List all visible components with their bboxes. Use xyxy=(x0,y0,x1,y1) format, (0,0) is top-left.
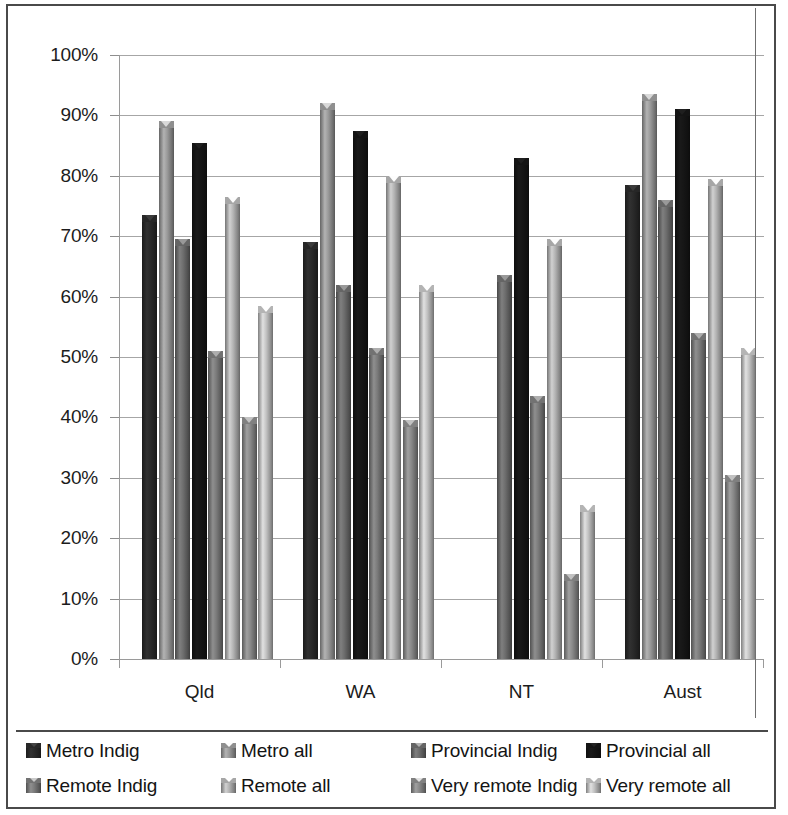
y-axis-tick-mark xyxy=(110,478,119,479)
legend-row: Remote IndigRemote allVery remote IndigV… xyxy=(16,769,768,802)
legend-item[interactable]: Remote Indig xyxy=(26,769,157,802)
x-axis-tick-mark xyxy=(763,659,764,668)
legend-swatch-notch-icon xyxy=(225,778,233,782)
bar-body xyxy=(514,165,529,659)
x-axis-category-label: WA xyxy=(346,681,376,703)
y-axis-tick-mark xyxy=(110,599,119,600)
bar-body xyxy=(625,192,640,659)
legend-item[interactable]: Metro Indig xyxy=(26,734,139,767)
bar-cap-notch-icon xyxy=(355,131,365,137)
bar-cap-notch-icon xyxy=(516,158,526,164)
bar-cap-notch-icon xyxy=(711,179,721,185)
bar-cap-notch-icon xyxy=(583,505,593,511)
legend-label: Metro all xyxy=(241,740,313,762)
bar-cap-notch-icon xyxy=(744,348,754,354)
legend-swatch-body xyxy=(586,783,601,793)
bar-body xyxy=(303,249,318,659)
y-axis-tick-label: 60% xyxy=(61,286,98,308)
bar-cap-notch-icon xyxy=(228,197,238,203)
bar-cap-notch-icon xyxy=(694,333,704,339)
legend-item[interactable]: Provincial Indig xyxy=(411,734,557,767)
y-axis-tick-label: 20% xyxy=(61,527,98,549)
bar xyxy=(675,109,690,659)
bar-cap-notch-icon xyxy=(727,475,737,481)
y-axis-tick-label: 10% xyxy=(61,588,98,610)
legend-swatch-body xyxy=(26,748,41,758)
y-axis-tick-mark xyxy=(110,236,119,237)
y-axis-tick-mark xyxy=(110,659,119,660)
bar-body xyxy=(175,246,190,659)
legend-label: Remote all xyxy=(241,775,330,797)
legend-swatch-notch-icon xyxy=(30,743,38,747)
legend-swatch-icon xyxy=(411,778,426,793)
y-axis-tick-label: 40% xyxy=(61,406,98,428)
y-axis-tick-mark xyxy=(110,357,119,358)
y-axis-tick-mark xyxy=(110,538,119,539)
legend-swatch-icon xyxy=(221,778,236,793)
legend-swatch-icon xyxy=(221,743,236,758)
bar xyxy=(386,176,401,659)
bar-cap-notch-icon xyxy=(533,396,543,402)
bar xyxy=(142,215,157,659)
bar-body xyxy=(159,128,174,659)
legend-label: Metro Indig xyxy=(46,740,139,762)
bar-body xyxy=(403,427,418,659)
bar-cap-notch-icon xyxy=(550,239,560,245)
legend-item[interactable]: Very remote all xyxy=(586,769,730,802)
legend-swatch-body xyxy=(221,783,236,793)
x-axis-tick-mark xyxy=(280,659,281,668)
bar xyxy=(336,285,351,659)
legend-swatch-body xyxy=(411,748,426,758)
bar-body xyxy=(225,204,240,659)
y-axis-tick-mark xyxy=(110,115,119,116)
bar xyxy=(419,285,434,659)
legend-item[interactable]: Remote all xyxy=(221,769,330,802)
bar xyxy=(708,179,723,659)
x-axis-tick-mark xyxy=(119,659,120,668)
legend-label: Very remote all xyxy=(606,775,730,797)
bar-body xyxy=(142,222,157,659)
bar-cap-notch-icon xyxy=(677,109,687,115)
bar-group xyxy=(603,55,764,659)
bar-cap-notch-icon xyxy=(500,275,510,281)
x-axis-tick-mark xyxy=(441,659,442,668)
legend-item[interactable]: Metro all xyxy=(221,734,313,767)
bar xyxy=(208,351,223,659)
bar xyxy=(725,475,740,659)
bar-body xyxy=(497,282,512,659)
legend-swatch-icon xyxy=(26,743,41,758)
bar-cap-notch-icon xyxy=(145,215,155,221)
bar xyxy=(547,239,562,659)
bars-layer xyxy=(120,55,764,659)
bar-body xyxy=(192,150,207,659)
bar-body xyxy=(386,183,401,659)
y-axis-tick-mark xyxy=(110,55,119,56)
bar-body xyxy=(708,186,723,659)
bar-cap-notch-icon xyxy=(339,285,349,291)
bar xyxy=(403,420,418,659)
bar-body xyxy=(353,138,368,660)
bar-cap-notch-icon xyxy=(261,306,271,312)
bar-body xyxy=(580,512,595,659)
y-axis-tick-mark xyxy=(110,417,119,418)
bar xyxy=(658,200,673,659)
legend-item[interactable]: Very remote Indig xyxy=(411,769,577,802)
legend-label: Provincial all xyxy=(606,740,711,762)
bar-body xyxy=(336,292,351,659)
legend-swatch-body xyxy=(411,783,426,793)
bar-cap-notch-icon xyxy=(405,420,415,426)
bar-body xyxy=(320,110,335,659)
bar-body xyxy=(419,292,434,659)
bar-cap-notch-icon xyxy=(372,348,382,354)
bar-cap-notch-icon xyxy=(389,176,399,182)
y-axis-tick-label: 70% xyxy=(61,225,98,247)
bar-group xyxy=(442,55,603,659)
bar xyxy=(691,333,706,659)
legend-swatch-body xyxy=(586,748,601,758)
bar-body xyxy=(369,355,384,659)
bar-group xyxy=(281,55,442,659)
plot-region: 0%10%20%30%40%50%60%70%80%90%100% QldWAN… xyxy=(34,14,778,720)
bar-body xyxy=(242,424,257,659)
legend-swatch-icon xyxy=(586,743,601,758)
legend-item[interactable]: Provincial all xyxy=(586,734,711,767)
